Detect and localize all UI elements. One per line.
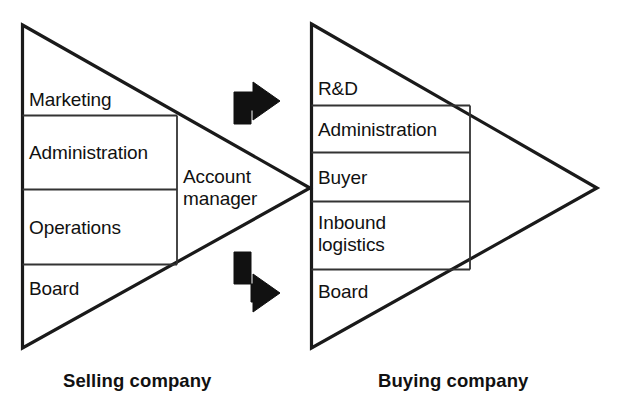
top-arrow-icon xyxy=(234,82,280,124)
buying-row-label-buyer: Buyer xyxy=(318,167,367,188)
account-manager-label-line1: Account xyxy=(183,166,251,187)
selling-row-label-administration: Administration xyxy=(29,142,148,163)
buying-row-label-inbound-logistics-line2: logistics xyxy=(318,234,385,255)
buying-company-caption: Buying company xyxy=(378,370,528,392)
diagram-canvas: Marketing Administration Operations Boar… xyxy=(0,0,620,414)
buying-row-label-board: Board xyxy=(318,281,368,302)
selling-row-label-board: Board xyxy=(29,278,79,299)
selling-row-separators xyxy=(23,116,178,265)
account-manager-label-line2: manager xyxy=(183,188,257,209)
bottom-arrow-icon xyxy=(234,252,280,312)
selling-row-label-marketing: Marketing xyxy=(29,89,112,110)
selling-row-label-operations: Operations xyxy=(29,217,121,238)
buying-row-label-administration: Administration xyxy=(318,119,437,140)
selling-company-caption: Selling company xyxy=(63,370,212,392)
bottom-arrow-shape xyxy=(234,252,280,312)
diagram-vector-layer xyxy=(0,0,620,414)
top-arrow-shape xyxy=(234,82,280,124)
buying-row-label-rd: R&D xyxy=(318,78,358,99)
buying-row-label-inbound-logistics-line1: Inbound xyxy=(318,212,386,233)
